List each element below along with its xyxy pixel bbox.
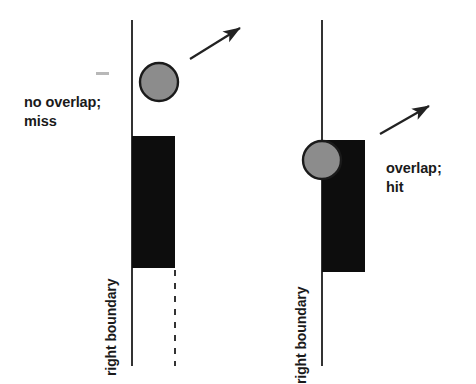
motion-arrow-right: [380, 106, 429, 134]
caption-no-overlap-miss: no overlap; miss: [24, 93, 101, 131]
panel-left: [132, 20, 240, 366]
motion-arrow-left: [190, 28, 240, 59]
boundary-label-right: right boundary: [293, 287, 309, 384]
ball-circle-left: [140, 63, 178, 101]
obstacle-rect-left: [132, 136, 175, 268]
caption-right-line2: hit: [386, 178, 442, 197]
figure-canvas: no overlap; miss overlap; hit right boun…: [0, 0, 476, 384]
caption-left-line1: no overlap;: [24, 93, 101, 112]
caption-overlap-hit: overlap; hit: [386, 159, 442, 197]
caption-right-line1: overlap;: [386, 159, 442, 178]
scan-speck-artifact: [96, 72, 109, 75]
caption-left-line2: miss: [24, 112, 101, 131]
boundary-label-left: right boundary: [103, 279, 119, 376]
ball-circle-right: [303, 141, 341, 179]
